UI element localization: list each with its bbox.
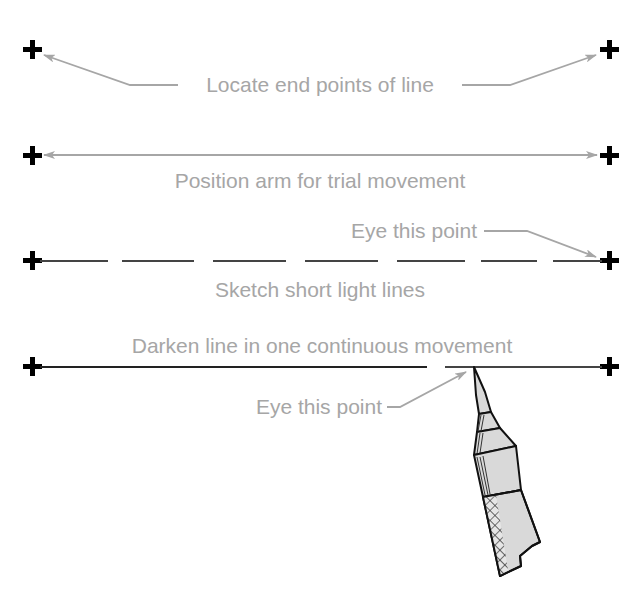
step-3-label: Sketch short light lines (215, 278, 425, 301)
step-3-callout: Eye this point (351, 219, 477, 242)
step-2-position-arm: Position arm for trial movement (23, 146, 619, 192)
plus-cross-icon (23, 357, 42, 376)
plus-cross-icon (23, 146, 42, 165)
plus-cross-icon (600, 251, 619, 270)
sketching-line-diagram: Locate end points of line Position arm f… (0, 0, 637, 594)
plus-cross-icon (23, 40, 42, 59)
step-2-label: Position arm for trial movement (175, 169, 466, 192)
step-1-label: Locate end points of line (206, 73, 434, 96)
leader-arrow-right (484, 231, 596, 257)
leader-arrow-pencil-tip (387, 372, 466, 407)
plus-cross-icon (600, 357, 619, 376)
plus-cross-icon (600, 40, 619, 59)
step-4-label: Darken line in one continuous movement (132, 334, 513, 357)
step-3-sketch-light-lines: Eye this point Sketch short light lines (23, 219, 619, 301)
step-4-callout: Eye this point (256, 395, 382, 418)
plus-cross-icon (23, 251, 42, 270)
step-1-locate-end-points: Locate end points of line (23, 40, 619, 96)
step-4-darken-line: Darken line in one continuous movement E… (23, 334, 619, 576)
pencil-icon (474, 367, 540, 576)
leader-arrow-left (44, 55, 178, 85)
plus-cross-icon (600, 146, 619, 165)
leader-arrow-right (462, 55, 596, 85)
